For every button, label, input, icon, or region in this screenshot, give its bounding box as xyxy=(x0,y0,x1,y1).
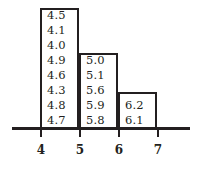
x-axis-label-7: 7 xyxy=(148,142,168,158)
data-value: 4.9 xyxy=(42,53,66,68)
histogram-bar-bin-5: 5.0 5.1 5.6 5.9 5.8 xyxy=(79,53,118,130)
histogram-chart: 4.5 4.1 4.0 4.9 4.6 4.3 4.8 4.7 5.0 5.1 … xyxy=(0,0,203,172)
data-value: 5.0 xyxy=(81,53,105,68)
data-value: 4.3 xyxy=(42,83,66,98)
data-value: 6.1 xyxy=(120,113,144,128)
x-axis-label-6: 6 xyxy=(109,142,129,158)
data-value: 4.5 xyxy=(42,8,66,23)
data-value: 5.8 xyxy=(81,113,105,128)
data-value: 4.0 xyxy=(42,38,66,53)
data-value: 4.1 xyxy=(42,23,66,38)
data-value: 4.8 xyxy=(42,98,66,113)
data-value: 6.2 xyxy=(120,98,144,113)
x-axis-line xyxy=(12,127,190,130)
x-axis-label-4: 4 xyxy=(31,142,51,158)
data-value: 5.1 xyxy=(81,68,105,83)
x-axis-tick xyxy=(40,127,42,137)
histogram-bar-bin-6: 6.2 6.1 xyxy=(118,92,157,130)
x-axis-label-5: 5 xyxy=(70,142,90,158)
x-axis-tick xyxy=(157,127,159,137)
data-value: 4.6 xyxy=(42,68,66,83)
data-value: 4.7 xyxy=(42,113,66,128)
x-axis-tick xyxy=(79,127,81,137)
histogram-bar-bin-4: 4.5 4.1 4.0 4.9 4.6 4.3 4.8 4.7 xyxy=(40,8,79,130)
x-axis-tick xyxy=(118,127,120,137)
data-value: 5.9 xyxy=(81,98,105,113)
data-value: 5.6 xyxy=(81,83,105,98)
